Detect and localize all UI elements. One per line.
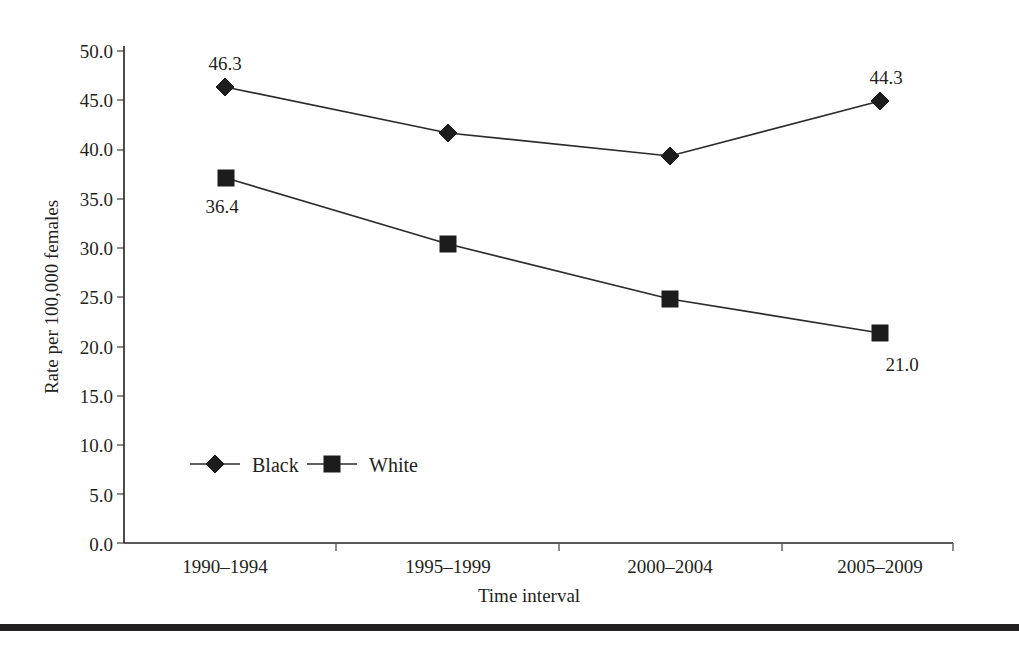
- y-axis-tick-labels: 50.0 45.0 40.0 35.0 30.0 25.0 20.0 15.0 …: [80, 41, 113, 555]
- data-point-labels: 46.3 44.3 36.4 21.0: [205, 53, 918, 375]
- y-tick-label: 40.0: [80, 139, 113, 160]
- legend-entry-white[interactable]: White: [307, 454, 418, 476]
- series-black-marker: [871, 92, 889, 110]
- data-label-black-first: 46.3: [208, 53, 241, 74]
- figure-container: 50.0 45.0 40.0 35.0 30.0 25.0 20.0 15.0 …: [0, 0, 1019, 649]
- y-tick-label: 35.0: [80, 189, 113, 210]
- series-white: [218, 170, 888, 341]
- x-tick-label: 1990–1994: [182, 556, 268, 577]
- legend-label-white: White: [369, 454, 418, 476]
- y-tick-label: 0.0: [89, 534, 113, 555]
- series-white-line: [226, 178, 880, 333]
- x-axis-tick-labels: 1990–1994 1995–1999 2000–2004 2005–2009: [182, 556, 923, 577]
- series-white-marker: [662, 291, 678, 307]
- series-white-marker: [218, 170, 234, 186]
- y-axis-title: Rate per 100,000 females: [41, 200, 62, 394]
- y-tick-label: 25.0: [80, 287, 113, 308]
- data-label-white-last: 21.0: [885, 354, 918, 375]
- series-black-marker: [661, 147, 679, 165]
- legend-entry-black[interactable]: Black: [190, 454, 299, 476]
- x-tick-label: 2005–2009: [837, 556, 923, 577]
- y-tick-label: 5.0: [89, 485, 113, 506]
- series-black: [216, 78, 889, 165]
- y-tick-label: 10.0: [80, 435, 113, 456]
- chart-legend: Black White: [190, 454, 418, 476]
- series-white-marker: [872, 325, 888, 341]
- data-label-black-last: 44.3: [869, 67, 902, 88]
- x-axis-tick-marks: [336, 543, 953, 551]
- series-white-marker: [440, 236, 456, 252]
- series-black-marker: [216, 78, 234, 96]
- x-axis-title: Time interval: [478, 585, 580, 606]
- y-tick-label: 45.0: [80, 90, 113, 111]
- diamond-icon: [206, 455, 224, 473]
- y-tick-label: 50.0: [80, 41, 113, 62]
- legend-label-black: Black: [252, 454, 299, 476]
- square-icon: [324, 456, 340, 472]
- series-black-line: [225, 87, 880, 156]
- y-tick-label: 20.0: [80, 337, 113, 358]
- y-axis-tick-marks: [117, 51, 124, 543]
- line-chart: 50.0 45.0 40.0 35.0 30.0 25.0 20.0 15.0 …: [0, 0, 1019, 649]
- x-tick-label: 2000–2004: [627, 556, 713, 577]
- y-tick-label: 15.0: [80, 386, 113, 407]
- y-tick-label: 30.0: [80, 238, 113, 259]
- data-label-white-first: 36.4: [205, 196, 239, 217]
- footer-divider: [0, 624, 1019, 631]
- x-tick-label: 1995–1999: [405, 556, 491, 577]
- series-black-marker: [439, 124, 457, 142]
